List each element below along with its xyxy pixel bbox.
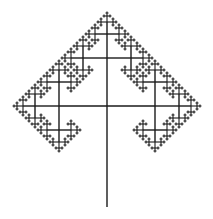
fractal-diagram (0, 0, 213, 219)
